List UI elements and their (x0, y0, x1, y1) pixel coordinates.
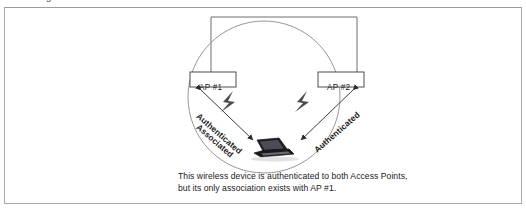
figure-caption-line2: but its only association exists with AP … (178, 183, 498, 195)
clipped-caption-left: Figure Authentication and association st… (38, 0, 228, 2)
figure-page: Figure Authentication and association st… (0, 0, 526, 211)
figure-frame: AP #1 AP #2 Authenticated Associated Aut… (4, 7, 522, 204)
figure-caption: This wireless device is authenticated to… (178, 171, 498, 194)
laptop-icon (251, 138, 299, 161)
ap1-label: AP #1 (199, 83, 222, 92)
lightning-bolt-left-icon (221, 91, 235, 112)
clipped-caption-row: Figure Authentication and association st… (0, 0, 526, 7)
ap2-label: AP #2 (327, 83, 350, 92)
figure-caption-line1: This wireless device is authenticated to… (178, 171, 498, 183)
clipped-caption-text: Figure Authentication and association st… (38, 0, 488, 2)
lightning-bolt-right-icon (295, 91, 309, 112)
